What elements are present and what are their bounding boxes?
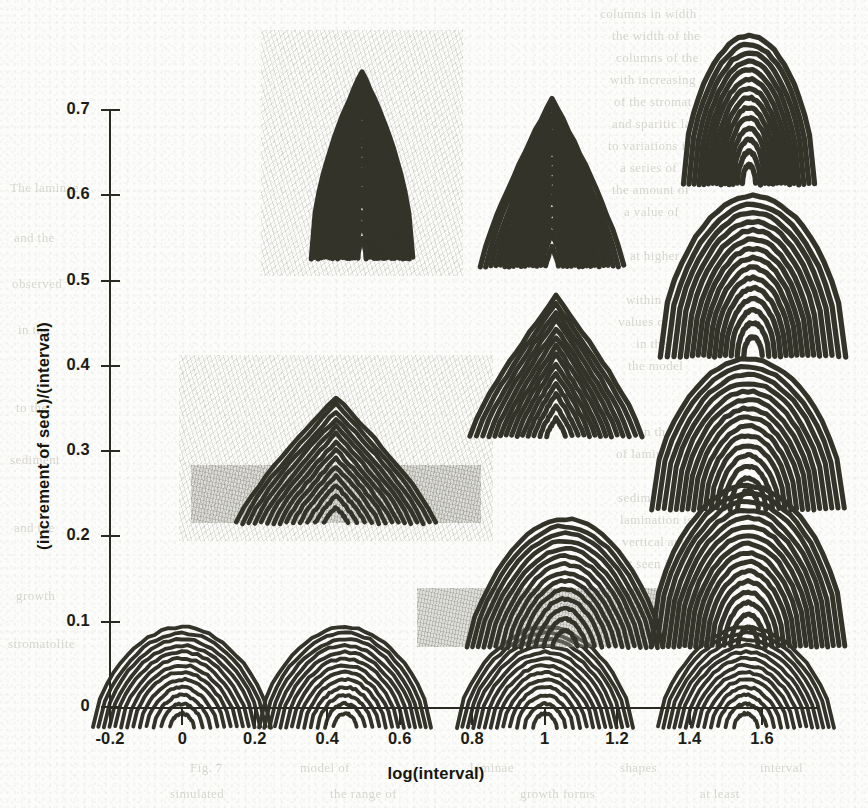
lamina-stack: [467, 280, 645, 452]
lamina: [334, 713, 357, 727]
lamina: [324, 507, 348, 522]
y-tick: [101, 194, 120, 196]
lamina-stack: [661, 180, 845, 372]
x-tick-label: 1.4: [650, 729, 730, 748]
bleed-text-line: growth forms: [520, 786, 595, 802]
lamina: [730, 478, 766, 510]
y-tick: [101, 535, 120, 537]
lamina: [737, 490, 758, 508]
growth-form-marker: [307, 56, 417, 274]
bleed-text-line: at least: [700, 786, 740, 802]
lamina-stack: [681, 20, 817, 200]
x-tick-label: 0.6: [360, 729, 440, 748]
y-tick-label: 0: [28, 696, 90, 715]
bleed-text-line: simulated: [170, 786, 224, 802]
lamina-stack: [225, 381, 447, 539]
x-axis-title: log(interval): [286, 764, 586, 783]
x-tick: [109, 708, 111, 725]
lamina-stack: [307, 56, 417, 274]
bleed-text-line: interval: [760, 760, 803, 776]
y-tick: [101, 365, 120, 367]
x-tick: [471, 708, 473, 725]
growth-form-marker: [225, 381, 447, 539]
y-tick-label: 0.1: [28, 611, 90, 630]
x-tick-label: 1.2: [577, 729, 657, 748]
bleed-text-line: a series of: [620, 160, 677, 176]
x-tick: [326, 708, 328, 725]
x-tick-label: -0.2: [70, 729, 150, 748]
x-tick-label: 1.6: [722, 729, 802, 748]
x-tick: [181, 708, 183, 725]
bleed-text-line: the range of: [330, 786, 397, 802]
y-tick-label: 0.5: [28, 270, 90, 289]
bleed-text-line: and the: [14, 230, 55, 246]
y-tick: [101, 109, 120, 111]
bleed-text-line: growth: [16, 588, 55, 604]
y-axis-line: [109, 110, 111, 709]
lamina: [734, 713, 758, 728]
y-tick-label: 0.6: [28, 184, 90, 203]
x-tick: [616, 708, 618, 725]
x-tick: [689, 708, 691, 725]
y-tick: [101, 450, 120, 452]
x-tick: [254, 708, 256, 725]
x-tick: [399, 708, 401, 725]
growth-form-marker: [467, 280, 645, 452]
x-tick-label: 0.4: [287, 729, 367, 748]
growth-form-marker: [480, 82, 624, 282]
x-tick-label: 0.8: [432, 729, 512, 748]
bleed-text-line: shapes: [620, 760, 657, 776]
x-tick: [761, 708, 763, 725]
lamina: [743, 164, 756, 183]
x-axis-line: [109, 707, 819, 709]
y-tick: [101, 621, 120, 623]
y-tick-label: 0.7: [28, 99, 90, 118]
x-tick: [544, 708, 546, 725]
y-tick: [101, 280, 120, 282]
growth-form-marker: [681, 20, 817, 200]
bleed-text-line: Fig. 7: [190, 760, 223, 776]
x-tick-label: 0.2: [215, 729, 295, 748]
lamina: [737, 627, 757, 647]
bleed-text-line: of the stromat: [614, 94, 692, 110]
y-axis-title: (increment of sed.)/(interval): [34, 322, 53, 550]
lamina: [552, 630, 577, 647]
bleed-text-line: stromatolite: [8, 636, 75, 652]
x-tick-label: 1: [505, 729, 585, 748]
growth-form-marker: [661, 180, 845, 372]
stromatolite-morphology-figure: columns in widththe width of thecolumns …: [0, 0, 868, 808]
lamina-stack: [480, 82, 624, 282]
lamina: [730, 614, 765, 647]
lamina: [744, 337, 762, 357]
x-tick-label: 0: [142, 729, 222, 748]
